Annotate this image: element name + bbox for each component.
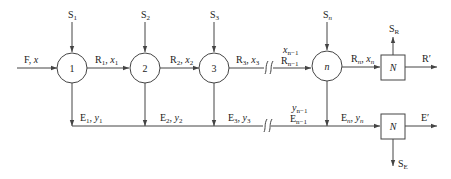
break-mark-raffinate-left	[265, 61, 268, 74]
stage-2-label: 2	[143, 63, 148, 74]
extract-n-label: En, yn	[341, 112, 364, 125]
extract-product-label: E′	[421, 112, 429, 123]
crosscurrent-extraction-diagram: F, x S1 1 R1, x1 E1, y1 S2 2 R2, x2 E2, …	[0, 0, 451, 179]
extract-2-label: E2, y2	[160, 112, 183, 125]
solvent-3-label: S3	[210, 9, 220, 22]
raffinate-3-label: R3, x3	[236, 54, 260, 67]
extract-recovery-label: N	[389, 121, 398, 132]
stage-1-label: 1	[70, 63, 75, 74]
raffinate-product-label: R′	[422, 53, 431, 64]
raffinate-2-label: R2, x2	[170, 54, 194, 67]
extract-1-label: E1, y1	[80, 112, 103, 125]
break-mark-extract-left	[264, 119, 267, 132]
raffinate-recovery-label: N	[389, 62, 398, 73]
stage-n-label: n	[325, 61, 330, 72]
extract-3-label: E3, y3	[228, 112, 251, 125]
break-mark-raffinate-right	[270, 61, 273, 74]
solvent-2-label: S2	[141, 9, 151, 22]
solvent-n-label: Sn	[323, 9, 333, 22]
raffinate-1-label: R1, x1	[95, 54, 119, 67]
stage-3-label: 3	[212, 63, 217, 74]
raffinate-n-label: Rn, xn	[351, 53, 375, 66]
solvent-1-label: S1	[68, 9, 78, 22]
raffinate-solvent-out-label: SR	[389, 23, 400, 36]
extract-solvent-out-label: SE	[398, 158, 408, 171]
feed-label: F, x	[24, 54, 39, 65]
